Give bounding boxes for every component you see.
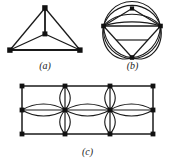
lens-m2-bottom [65, 110, 110, 116]
panel-a: (a) [2, 0, 88, 78]
figure-root: (a) [0, 0, 175, 163]
panel-b: (b) [90, 0, 175, 78]
vertex-bottom-left [7, 47, 12, 52]
vertex-bottom-right [77, 47, 82, 52]
vertex-r1c1 [20, 84, 25, 89]
vertex-r1c3 [108, 84, 113, 89]
edge-center-bottomleft [10, 34, 45, 50]
caption-a: (a) [2, 60, 88, 71]
vertex-r2c3 [108, 108, 113, 113]
lens-c3-lower-right [110, 110, 115, 134]
caption-c: (c) [0, 146, 175, 157]
lens-c2-upper-left [60, 86, 65, 110]
lens-c2-upper-right [65, 86, 70, 110]
vertex-apex [130, 6, 134, 10]
graph-c-drawing [0, 78, 175, 146]
lens-c3-upper-right [110, 86, 115, 110]
graph-a-drawing [2, 0, 88, 60]
lens-m3-top [110, 104, 153, 110]
lens-c2-lower-right [65, 110, 70, 134]
vertex-center [42, 31, 47, 36]
vertex-r1c4 [151, 84, 156, 89]
graph-a-edges [10, 8, 80, 50]
vertex-right [158, 24, 163, 29]
vertex-r2c4 [151, 108, 156, 113]
lens-c3-lower-left [105, 110, 110, 134]
vertex-r1c2 [63, 84, 68, 89]
vertex-r2c2 [63, 108, 68, 113]
vertex-r2c1 [20, 108, 25, 113]
panel-c: (c) [0, 78, 175, 163]
graph-c-edges [22, 86, 153, 134]
lens-c3-upper-left [105, 86, 110, 110]
caption-b: (b) [90, 60, 175, 71]
lens-m3-bottom [110, 110, 153, 116]
edge-center-bottomright [45, 34, 80, 50]
vertex-r3c3 [108, 132, 113, 137]
graph-b-drawing [90, 0, 175, 60]
vertex-r3c4 [151, 132, 156, 137]
vertex-r3c2 [63, 132, 68, 137]
lens-m1-top [22, 104, 65, 110]
vertex-left [101, 24, 106, 29]
edge-top-bottomleft [10, 8, 45, 50]
lens-m2-top [65, 104, 110, 110]
edge-top-bottomright [45, 8, 80, 50]
vertex-r3c1 [20, 132, 25, 137]
vertex-top [42, 5, 47, 10]
lens-c2-lower-left [60, 110, 65, 134]
lens-m1-bottom [22, 110, 65, 116]
